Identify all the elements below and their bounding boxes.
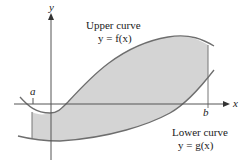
upper-curve-equation: y = f(x): [98, 32, 132, 45]
area-between-curves-diagram: y x a b Upper curve y = f(x) Lower curve…: [0, 0, 244, 165]
lower-curve-equation: y = g(x): [178, 139, 214, 152]
bound-b-label: b: [203, 106, 209, 118]
y-axis-arrow-icon: [48, 13, 54, 20]
y-axis-label: y: [48, 1, 54, 13]
upper-curve-title: Upper curve: [86, 19, 141, 31]
x-axis-label: x: [232, 97, 238, 109]
bound-a-label: a: [30, 85, 36, 97]
x-axis-arrow-icon: [223, 101, 230, 107]
lower-curve-title: Lower curve: [172, 126, 228, 138]
